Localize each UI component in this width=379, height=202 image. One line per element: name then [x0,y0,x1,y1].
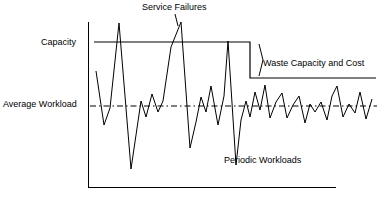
workload-capacity-chart: Service Failures Capacity Waste Capacity… [0,0,379,202]
annotation-service-failures: Service Failures [142,2,207,13]
annotation-capacity: Capacity [41,37,76,48]
service-failures-pointer-icon [175,14,178,26]
annotation-waste-capacity-and-cost: Waste Capacity and Cost [263,58,364,69]
periodic-workloads-line [96,22,372,169]
annotation-average-workload: Average Workload [3,99,77,110]
annotation-periodic-workloads: Periodic Workloads [224,155,301,166]
